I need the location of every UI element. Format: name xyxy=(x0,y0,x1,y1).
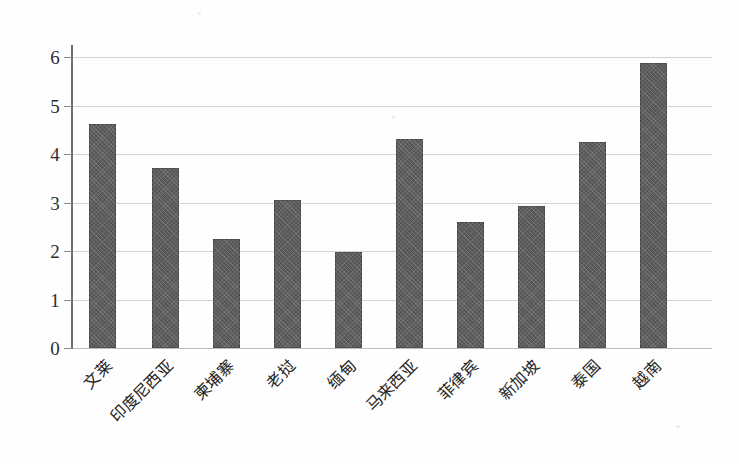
y-axis-tick-1 xyxy=(64,300,72,301)
gridline-5 xyxy=(72,106,712,107)
x-label-slot-9: 越南 xyxy=(622,349,682,459)
x-label-slot-5: 马来西亚 xyxy=(378,349,438,459)
bar-1 xyxy=(152,168,179,348)
x-label-slot-8: 泰国 xyxy=(561,349,621,459)
bar-0 xyxy=(89,124,116,348)
x-label-slot-3: 老挝 xyxy=(256,349,316,459)
gridline-6 xyxy=(72,57,712,58)
scan-speck xyxy=(676,425,680,428)
y-tick-label-3: 3 xyxy=(14,194,60,213)
x-label-slot-7: 新加坡 xyxy=(500,349,560,459)
y-tick-label-1: 1 xyxy=(14,291,60,310)
x-tick-label-0: 文莱 xyxy=(80,357,115,392)
x-axis-tick-labels: 文莱 印度尼西亚 柬埔寨 老挝 缅甸 马来西亚 菲律宾 新加坡 泰国 越南 xyxy=(72,349,712,464)
plot-area xyxy=(72,45,712,348)
x-tick-label-8: 泰国 xyxy=(568,357,603,392)
bar-8 xyxy=(579,142,606,348)
y-tick-label-6: 6 xyxy=(14,48,60,67)
scan-speck xyxy=(392,116,395,119)
y-axis-tick-6 xyxy=(64,57,72,58)
x-label-slot-1: 印度尼西亚 xyxy=(134,349,194,459)
bar-3 xyxy=(274,200,301,348)
x-tick-label-4: 缅甸 xyxy=(324,357,359,392)
x-label-slot-2: 柬埔寨 xyxy=(195,349,255,459)
y-axis-tick-2 xyxy=(64,251,72,252)
bar-5 xyxy=(396,139,423,348)
y-axis-tick-4 xyxy=(64,154,72,155)
bar-7 xyxy=(518,206,545,348)
y-axis-tick-0 xyxy=(64,348,72,349)
y-tick-label-5: 5 xyxy=(14,97,60,116)
x-tick-label-6: 菲律宾 xyxy=(435,357,481,403)
x-tick-label-2: 柬埔寨 xyxy=(191,357,237,403)
x-tick-label-7: 新加坡 xyxy=(496,357,542,403)
y-axis-tick-labels: 6 5 4 3 2 1 0 xyxy=(0,0,60,464)
x-label-slot-6: 菲律宾 xyxy=(439,349,499,459)
y-axis-line xyxy=(71,45,73,349)
scan-speck xyxy=(198,12,201,15)
chart-figure: 6 5 4 3 2 1 0 文莱 印度尼西亚 柬埔寨 老挝 缅甸 马来西亚 菲律… xyxy=(0,0,739,464)
y-tick-label-2: 2 xyxy=(14,242,60,261)
y-tick-label-0: 0 xyxy=(14,339,60,358)
gridline-4 xyxy=(72,154,712,155)
bar-9 xyxy=(640,63,667,348)
bar-4 xyxy=(335,252,362,348)
y-tick-label-4: 4 xyxy=(14,145,60,164)
x-tick-label-3: 老挝 xyxy=(263,357,298,392)
y-axis-tick-3 xyxy=(64,203,72,204)
bar-2 xyxy=(213,239,240,348)
bar-6 xyxy=(457,222,484,348)
y-axis-tick-5 xyxy=(64,106,72,107)
x-tick-label-9: 越南 xyxy=(629,357,664,392)
